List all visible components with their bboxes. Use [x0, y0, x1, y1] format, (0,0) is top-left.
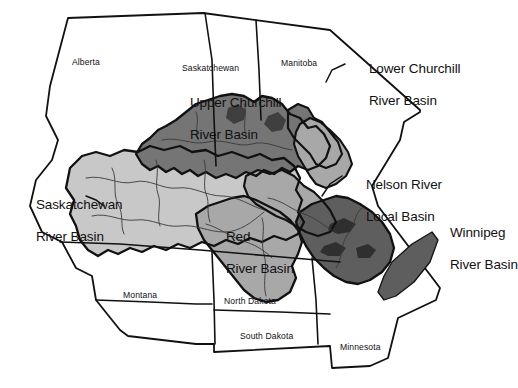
map-figure: Upper Churchill River Basin Lower Church…	[0, 0, 493, 388]
map-graphic	[0, 0, 493, 388]
